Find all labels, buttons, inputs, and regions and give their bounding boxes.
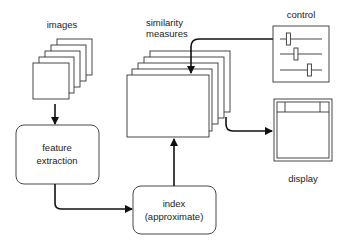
feature-extraction-node: feature extraction (16, 125, 99, 184)
feature-label-line1: feature (42, 142, 72, 153)
arrow-feature-to-index (55, 184, 132, 209)
similarity-label-line2: measures (146, 28, 188, 39)
images-label: images (47, 19, 78, 30)
index-label-line2: (approximate) (145, 211, 204, 222)
display-window (274, 99, 332, 161)
slider-thumb (307, 64, 311, 76)
image-page (33, 63, 69, 99)
slider-thumb (294, 48, 298, 60)
display-label: display (288, 173, 318, 184)
diagram-canvas: images feature extraction index (approxi… (0, 0, 347, 243)
index-label-line1: index (163, 198, 186, 209)
arrow-similarity-to-display (226, 117, 272, 131)
similarity-label-line1: similarity (146, 17, 183, 28)
similarity-measures-stack (127, 51, 230, 137)
images-stack (33, 39, 92, 99)
control-panel (273, 26, 329, 82)
index-node: index (approximate) (133, 186, 216, 234)
similarity-page (127, 75, 209, 137)
control-label: control (287, 9, 316, 20)
index-box (133, 186, 216, 234)
display-outer-frame (274, 99, 332, 161)
feature-label-line2: extraction (36, 155, 77, 166)
slider-thumb (286, 33, 290, 45)
